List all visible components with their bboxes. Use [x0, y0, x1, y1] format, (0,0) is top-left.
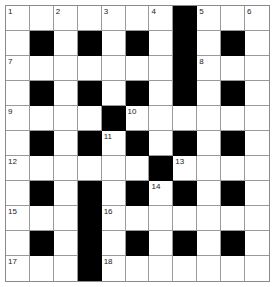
crossword-cell[interactable]: 4 [149, 6, 173, 31]
crossword-cell[interactable] [173, 206, 197, 231]
crossword-cell[interactable] [221, 106, 245, 131]
crossword-cell[interactable] [126, 156, 150, 181]
crossword-cell[interactable] [221, 206, 245, 231]
crossword-cell[interactable] [30, 156, 54, 181]
crossword-cell[interactable] [149, 256, 173, 281]
crossword-cell[interactable] [197, 131, 221, 156]
crossword-cell[interactable]: 14 [149, 181, 173, 206]
clue-number: 8 [199, 57, 203, 66]
crossword-cell[interactable]: 11 [102, 131, 126, 156]
crossword-cell[interactable] [173, 106, 197, 131]
crossword-cell[interactable] [54, 131, 78, 156]
crossword-cell[interactable] [149, 31, 173, 56]
crossword-cell[interactable]: 10 [126, 106, 150, 131]
crossword-cell[interactable]: 13 [173, 156, 197, 181]
crossword-cell[interactable] [245, 56, 269, 81]
crossword-cell[interactable] [245, 81, 269, 106]
crossword-cell[interactable] [197, 181, 221, 206]
crossword-cell[interactable] [245, 31, 269, 56]
crossword-cell[interactable]: 16 [102, 206, 126, 231]
crossword-cell[interactable]: 9 [6, 106, 30, 131]
crossword-cell[interactable] [126, 6, 150, 31]
crossword-cell[interactable] [102, 156, 126, 181]
crossword-cell[interactable] [245, 131, 269, 156]
crossword-cell[interactable] [6, 31, 30, 56]
crossword-cell[interactable]: 2 [54, 6, 78, 31]
crossword-cell[interactable] [245, 181, 269, 206]
crossword-cell[interactable] [149, 206, 173, 231]
crossword-cell[interactable] [78, 56, 102, 81]
crossword-cell[interactable] [149, 56, 173, 81]
crossword-cell[interactable] [6, 231, 30, 256]
crossword-cell[interactable] [102, 231, 126, 256]
clue-number: 2 [56, 7, 60, 16]
crossword-cell[interactable] [126, 206, 150, 231]
crossword-cell[interactable] [173, 256, 197, 281]
crossword-cell[interactable]: 8 [197, 56, 221, 81]
crossword-cell[interactable] [149, 231, 173, 256]
crossword-cell[interactable] [54, 31, 78, 56]
crossword-cell[interactable] [197, 106, 221, 131]
crossword-cell[interactable] [221, 56, 245, 81]
crossword-cell[interactable] [221, 156, 245, 181]
crossword-cell[interactable]: 18 [102, 256, 126, 281]
crossword-cell[interactable] [54, 56, 78, 81]
crossword-cell[interactable] [30, 106, 54, 131]
crossword-cell[interactable] [197, 206, 221, 231]
crossword-cell[interactable] [54, 181, 78, 206]
crossword-cell[interactable]: 17 [6, 256, 30, 281]
crossword-cell[interactable]: 3 [102, 6, 126, 31]
crossword-cell[interactable] [245, 106, 269, 131]
crossword-cell[interactable] [30, 6, 54, 31]
crossword-cell[interactable] [102, 31, 126, 56]
crossword-cell[interactable]: 6 [245, 6, 269, 31]
crossword-cell[interactable]: 1 [6, 6, 30, 31]
crossword-cell[interactable] [149, 106, 173, 131]
clue-number: 7 [8, 57, 12, 66]
crossword-cell[interactable] [102, 181, 126, 206]
clue-number: 14 [151, 182, 160, 191]
clue-number: 11 [104, 132, 112, 141]
crossword-cell[interactable] [126, 56, 150, 81]
black-square [126, 81, 150, 106]
crossword-cell[interactable] [245, 231, 269, 256]
crossword-cell[interactable]: 7 [6, 56, 30, 81]
crossword-cell[interactable] [54, 156, 78, 181]
crossword-cell[interactable] [30, 256, 54, 281]
crossword-cell[interactable] [54, 106, 78, 131]
black-square [149, 156, 173, 181]
crossword-cell[interactable] [221, 6, 245, 31]
black-square [78, 131, 102, 156]
crossword-cell[interactable] [126, 256, 150, 281]
crossword-cell[interactable]: 12 [6, 156, 30, 181]
crossword-cell[interactable] [30, 56, 54, 81]
crossword-cell[interactable] [149, 131, 173, 156]
crossword-cell[interactable] [197, 156, 221, 181]
crossword-cell[interactable] [245, 256, 269, 281]
crossword-cell[interactable] [78, 6, 102, 31]
crossword-cell[interactable] [245, 156, 269, 181]
crossword-cell[interactable] [245, 206, 269, 231]
crossword-cell[interactable]: 5 [197, 6, 221, 31]
crossword-cell[interactable] [197, 231, 221, 256]
crossword-cell[interactable] [102, 81, 126, 106]
crossword-cell[interactable] [102, 56, 126, 81]
crossword-cell[interactable] [197, 256, 221, 281]
crossword-cell[interactable] [6, 81, 30, 106]
crossword-cell[interactable] [197, 31, 221, 56]
crossword-cell[interactable] [221, 256, 245, 281]
crossword-cell[interactable] [197, 81, 221, 106]
black-square [126, 131, 150, 156]
crossword-cell[interactable] [78, 106, 102, 131]
clue-number: 3 [104, 7, 108, 16]
crossword-cell[interactable]: 15 [6, 206, 30, 231]
crossword-cell[interactable] [6, 181, 30, 206]
crossword-cell[interactable] [30, 206, 54, 231]
crossword-cell[interactable] [6, 131, 30, 156]
crossword-cell[interactable] [54, 81, 78, 106]
crossword-cell[interactable] [54, 256, 78, 281]
crossword-cell[interactable] [54, 206, 78, 231]
crossword-cell[interactable] [54, 231, 78, 256]
crossword-cell[interactable] [78, 156, 102, 181]
crossword-cell[interactable] [149, 81, 173, 106]
